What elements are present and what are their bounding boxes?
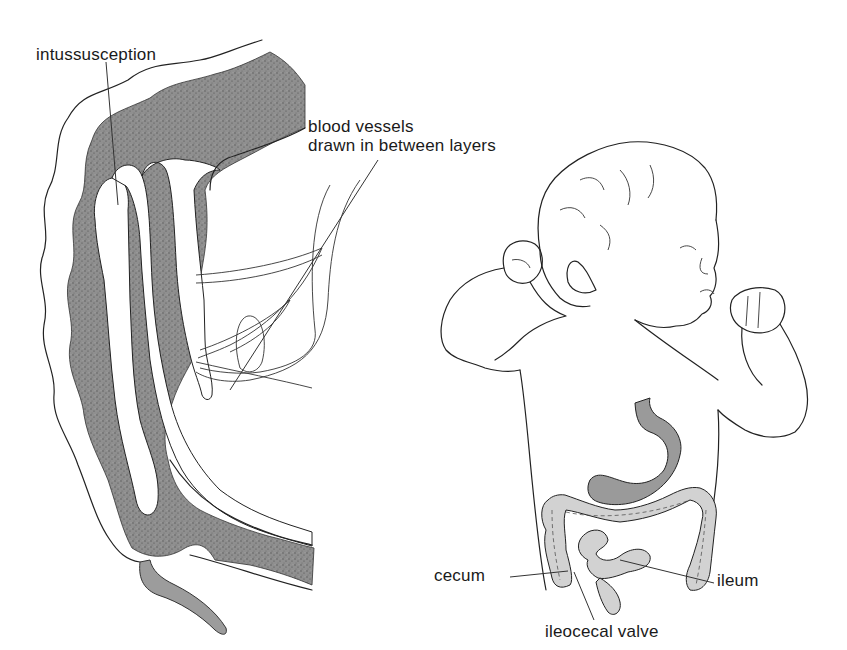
stomach bbox=[588, 398, 681, 505]
child-left-fist bbox=[503, 241, 542, 283]
child-right-arm bbox=[718, 324, 808, 437]
child-hair bbox=[538, 142, 717, 250]
child-head-back bbox=[540, 250, 590, 307]
appendix-tail bbox=[140, 560, 227, 634]
small-intestine bbox=[578, 530, 650, 578]
child-eye bbox=[680, 246, 696, 250]
blood-vessels-label-line2: drawn in between layers bbox=[308, 136, 496, 156]
blood-vessels-label: blood vessels bbox=[308, 117, 414, 137]
child-left-arm bbox=[441, 268, 520, 371]
intussusception-label: intussusception bbox=[36, 45, 156, 65]
child-nose bbox=[700, 258, 708, 274]
ileum-segment bbox=[596, 578, 620, 614]
ileocecal-valve-leader bbox=[574, 572, 594, 620]
ileum-label: ileum bbox=[717, 571, 759, 591]
child-ear bbox=[567, 261, 596, 293]
cecum-label: cecum bbox=[434, 566, 485, 586]
blood-vessels bbox=[196, 180, 360, 388]
child-torso-left bbox=[520, 370, 546, 590]
child-diagram bbox=[441, 142, 807, 620]
ileocecal-valve-label: ileocecal valve bbox=[545, 622, 659, 642]
illustration-canvas bbox=[0, 0, 847, 650]
